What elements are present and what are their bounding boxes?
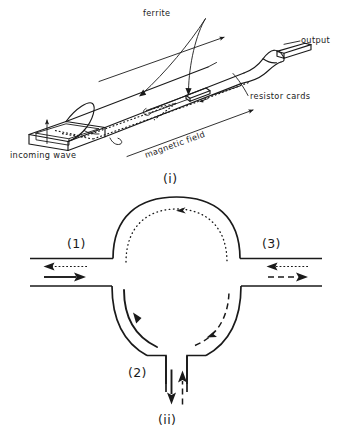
output-waveguide-stub: [277, 43, 311, 58]
caption-panel-ii: (ii): [158, 412, 176, 427]
label-incoming-wave: incoming wave: [10, 150, 76, 160]
port-3-incident-dotted-arrow: [267, 263, 309, 271]
port-2-out-solid-arrow: [167, 370, 176, 405]
port-2-in-dashed-arrow: [178, 371, 187, 405]
ring-lower-right-dashed-arc: [195, 290, 229, 346]
port-3-return-dashed-arrow: [268, 272, 308, 281]
port-1-return-dotted-arrow: [44, 263, 88, 271]
port-1-incident-solid-arrow: [44, 272, 86, 281]
label-port-3: (3): [262, 236, 281, 251]
figure-root: ferrite output resistor cards incoming w…: [0, 0, 353, 429]
output-leader-line: [284, 41, 300, 44]
label-ferrite: ferrite: [143, 8, 170, 18]
label-resistor-cards: resistor cards: [250, 91, 310, 101]
ring-top-dotted-arc: [126, 207, 227, 262]
lower-hook-detail: [110, 138, 122, 145]
label-magnetic-field: magnetic field: [143, 129, 206, 160]
figure-svg: ferrite output resistor cards incoming w…: [0, 0, 353, 429]
waveguide-input-flange: [29, 122, 105, 151]
port-3-arm: [240, 259, 322, 287]
waveguide-output-taper: [241, 50, 284, 83]
ring-outer-wall: [113, 197, 240, 259]
caption-panel-i: (i): [163, 171, 177, 186]
port-2-arm: [166, 356, 187, 392]
ring-lower-left-solid-arc: [124, 290, 157, 347]
ferrite-leader-line-2: [143, 20, 206, 94]
port-1-arm: [30, 259, 113, 287]
panel-ii-drawing: [30, 197, 322, 405]
label-port-2: (2): [128, 365, 147, 380]
label-output: output: [301, 35, 331, 45]
ferrite-leader-line: [189, 19, 206, 91]
panel-i-drawing: [29, 19, 311, 157]
label-port-1: (1): [67, 236, 86, 251]
